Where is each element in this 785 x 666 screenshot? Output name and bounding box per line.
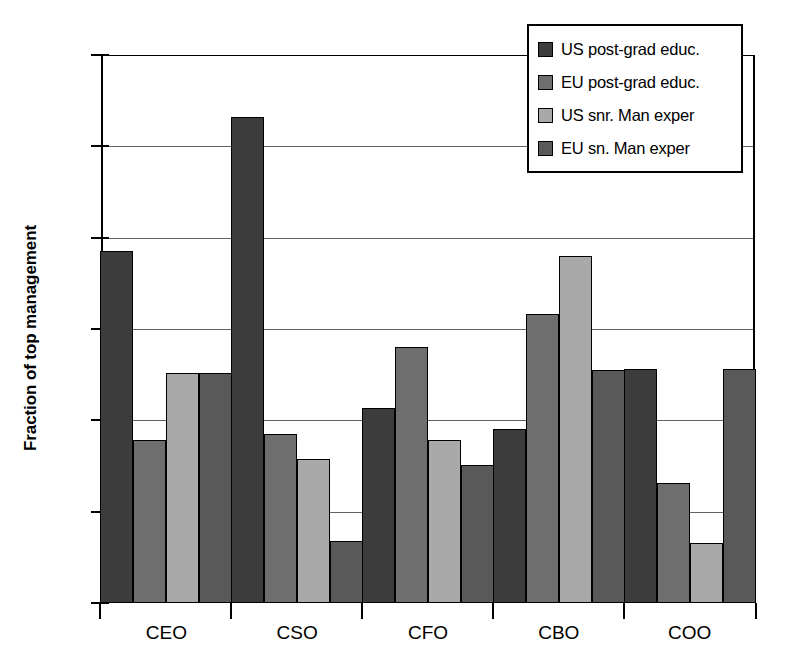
bar[interactable] xyxy=(100,251,133,603)
legend-swatch-icon xyxy=(538,141,553,156)
legend-item-label: US snr. Man exper xyxy=(561,106,694,125)
legend-item-label: EU sn. Man exper xyxy=(561,139,690,158)
bar[interactable] xyxy=(624,369,657,603)
x-axis-tick-mark xyxy=(492,603,494,619)
y-axis-title: Fraction of top management xyxy=(21,203,41,473)
legend-item[interactable]: EU post-grad educ. xyxy=(538,66,741,99)
legend-item-label: US post-grad educ. xyxy=(561,40,700,59)
x-axis-tick-mark xyxy=(99,603,101,619)
legend-item[interactable]: US snr. Man exper xyxy=(538,99,741,132)
bar-chart: Fraction of top management 00.10.20.30.4… xyxy=(0,0,785,666)
bar[interactable] xyxy=(723,369,756,603)
bar[interactable] xyxy=(461,465,494,603)
legend-item[interactable]: US post-grad educ. xyxy=(538,33,741,66)
legend: US post-grad educ.EU post-grad educ.US s… xyxy=(527,24,743,173)
bar-group-cfo xyxy=(362,55,494,603)
legend-swatch-icon xyxy=(538,42,553,57)
bar[interactable] xyxy=(362,408,395,603)
x-axis-tick-mark xyxy=(755,603,757,619)
bar[interactable] xyxy=(264,434,297,603)
x-axis-tick-mark xyxy=(623,603,625,619)
bar[interactable] xyxy=(493,429,526,603)
x-axis-tick-label: CEO xyxy=(106,622,226,644)
bar[interactable] xyxy=(690,543,723,603)
legend-swatch-icon xyxy=(538,75,553,90)
x-axis-tick-mark xyxy=(230,603,232,619)
bar[interactable] xyxy=(657,483,690,603)
legend-item-label: EU post-grad educ. xyxy=(561,73,700,92)
bar[interactable] xyxy=(395,347,428,603)
bar[interactable] xyxy=(526,314,559,603)
x-axis-tick-label: CBO xyxy=(499,622,619,644)
bar[interactable] xyxy=(330,541,363,603)
bar[interactable] xyxy=(133,440,166,603)
bar[interactable] xyxy=(428,440,461,603)
legend-swatch-icon xyxy=(538,108,553,123)
legend-items: US post-grad educ.EU post-grad educ.US s… xyxy=(538,33,741,165)
bar[interactable] xyxy=(559,256,592,603)
x-axis-tick-label: COO xyxy=(630,622,750,644)
bar[interactable] xyxy=(592,370,625,603)
bar-group-cso xyxy=(231,55,363,603)
bar[interactable] xyxy=(297,459,330,603)
x-axis-tick-label: CSO xyxy=(237,622,357,644)
bar[interactable] xyxy=(231,117,264,603)
legend-item[interactable]: EU sn. Man exper xyxy=(538,132,741,165)
x-axis-tick-label: CFO xyxy=(368,622,488,644)
bar-group-ceo xyxy=(100,55,232,603)
bar[interactable] xyxy=(166,373,199,603)
bar[interactable] xyxy=(199,373,232,603)
x-axis-tick-mark xyxy=(361,603,363,619)
